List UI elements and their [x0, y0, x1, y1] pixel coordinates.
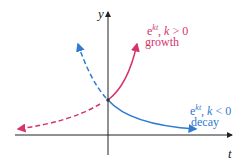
- growth-dashed-curve: [18, 104, 100, 129]
- decay-dashed-curve: [78, 44, 106, 98]
- decay-label: decay: [191, 116, 219, 128]
- diagram-canvas: [0, 0, 245, 165]
- growth-curve: [108, 44, 137, 100]
- x-axis-label: t: [228, 148, 232, 160]
- intercept-point: [106, 98, 110, 102]
- growth-label: growth: [145, 36, 179, 48]
- y-axis-label: y: [98, 8, 104, 20]
- decay-curve: [108, 100, 196, 129]
